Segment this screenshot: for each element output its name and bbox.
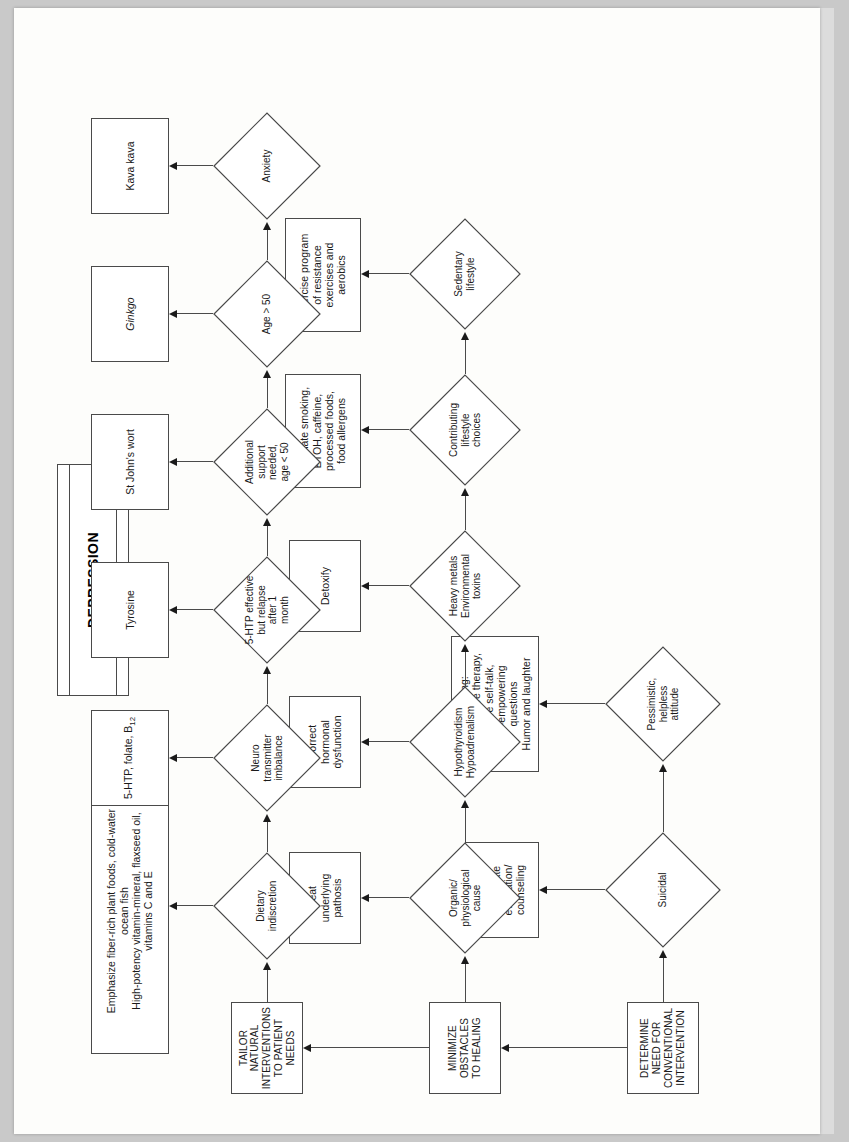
arrowhead-to-exercise <box>361 271 369 279</box>
connector-organic-to-treat-pathosis <box>369 897 409 898</box>
connector-thyroid-to-correct-hormonal <box>369 741 409 742</box>
arrowhead-to-eliminate <box>361 427 369 435</box>
paper-right-edge <box>820 8 834 1134</box>
connector-obstacles-to-organic <box>465 962 466 1002</box>
decision-contributing-lifestyle-choices[interactable]: Contributing lifestyle choices <box>409 374 521 486</box>
connector-support-to-stjohns <box>177 461 213 462</box>
arrowhead-to-pessimistic <box>659 764 667 772</box>
paper-sheet: DEPRESSION DETERMINE NEED FOR CONVENTION… <box>14 8 820 1134</box>
arrowhead-to-suicidal <box>659 950 667 958</box>
decision-suicidal[interactable]: Suicidal <box>605 832 721 948</box>
arrowhead-to-anxiety <box>263 222 271 230</box>
arrowhead-to-tyrosine <box>169 607 177 615</box>
arrowhead-to-sedentary <box>461 332 469 340</box>
connector-pessimistic-to-counseling <box>547 703 605 704</box>
decision-dietary-indiscretion[interactable]: Dietary indiscretion <box>213 852 321 960</box>
arrowhead-to-detoxify <box>361 583 369 591</box>
decision-age-over-50[interactable]: Age > 50 <box>213 260 321 368</box>
decision-pessimistic-helpless[interactable]: Pessimistic, helpless attitude <box>605 646 721 762</box>
connector-relapse-to-support <box>267 524 268 556</box>
stage-determine-need-conventional[interactable]: DETERMINE NEED FOR CONVENTIONAL INTERVEN… <box>627 1002 699 1094</box>
decision-relapse-label: 5-HTP effective but relapse after 1 mont… <box>244 569 290 651</box>
connector-anxiety-to-kava <box>177 165 213 166</box>
arrowhead-to-diet-plan <box>169 903 177 911</box>
connector-age50-to-anxiety <box>267 228 268 260</box>
decision-sedentary-label: Sedentary lifestyle <box>453 231 476 316</box>
decision-sedentary-lifestyle[interactable]: Sedentary lifestyle <box>409 218 521 330</box>
connector-spine-conventional-to-obstacles <box>509 1047 627 1048</box>
decision-heavy-metals-toxins[interactable]: Heavy metals Environmental toxins <box>409 530 521 642</box>
connector-natural-to-dietary <box>267 968 268 1002</box>
arrowhead-to-stjohns <box>169 459 177 467</box>
connector-suicidal-to-refer <box>547 889 605 890</box>
decision-hypothyroidism-hypoadrenalism[interactable]: Hypothyroidism Hypoadrenalism <box>409 686 521 798</box>
subscript-12: 12 <box>128 717 137 726</box>
stage-minimize-obstacles-to-healing[interactable]: MINIMIZE OBSTACLES TO HEALING <box>429 1002 501 1094</box>
arrowhead-to-metals <box>461 644 469 652</box>
stage-tailor-natural-interventions[interactable]: TAILOR NATURAL INTERVENTIONS TO PATIENT … <box>231 1002 303 1094</box>
arrowhead-to-lifestyle <box>461 488 469 496</box>
page-background: DEPRESSION DETERMINE NEED FOR CONVENTION… <box>0 0 849 1142</box>
arrowhead-to-counseling <box>539 701 547 709</box>
arrowhead-to-treat-pathosis <box>361 895 369 903</box>
connector-suicidal-to-pessimistic <box>663 770 664 832</box>
arrowhead-to-age50 <box>263 370 271 378</box>
connector-sedentary-to-exercise <box>369 273 409 274</box>
connector-dietary-to-diet-plan <box>177 905 213 906</box>
outcome-diet-plan[interactable]: Emphasize fiber-rich plant foods, cold-w… <box>91 768 169 1054</box>
arrowhead-spine-to-obstacles <box>501 1045 509 1053</box>
decision-age50-label: Age > 50 <box>261 273 273 355</box>
decision-suicidal-label: Suicidal <box>657 846 669 934</box>
arrowhead-to-correct-hormonal <box>361 739 369 747</box>
outcome-st-johns-wort[interactable]: St John's wort <box>91 414 169 510</box>
connector-dietary-to-neuro <box>267 820 268 852</box>
decision-anxiety[interactable]: Anxiety <box>213 112 321 220</box>
arrowhead-to-thyroid <box>461 800 469 808</box>
arrowhead-to-fivehtp <box>169 755 177 763</box>
outcome-ginkgo[interactable]: Ginkgo <box>91 266 169 362</box>
connector-organic-to-thyroid <box>465 806 466 842</box>
decision-metals-label: Heavy metals Environmental toxins <box>448 543 483 628</box>
arrowhead-to-kava <box>169 163 177 171</box>
decision-lifestyle-label: Contributing lifestyle choices <box>448 387 483 472</box>
flowchart-canvas: DEPRESSION DETERMINE NEED FOR CONVENTION… <box>27 26 807 1116</box>
outcome-tyrosine[interactable]: Tyrosine <box>91 562 169 658</box>
connector-conventional-to-suicidal <box>663 956 664 1002</box>
decision-support-label: Additional support needed, age < 50 <box>244 421 290 503</box>
outcome-kava-kava[interactable]: Kava kava <box>91 118 169 214</box>
arrowhead-to-support <box>263 518 271 526</box>
rotated-diagram-wrapper: DEPRESSION DETERMINE NEED FOR CONVENTION… <box>27 26 807 1116</box>
decision-anxiety-label: Anxiety <box>261 125 273 207</box>
arrowhead-to-relapse <box>263 666 271 674</box>
connector-spine-obstacles-to-natural <box>311 1047 429 1048</box>
connector-relapse-to-tyrosine <box>177 609 213 610</box>
outcome-5htp-label: 5-HTP, folate, B12 <box>122 717 137 799</box>
connector-neuro-to-fivehtp <box>177 757 213 758</box>
decision-neuro-label: Neuro transmitter imbalance <box>250 717 285 799</box>
connector-thyroid-to-metals <box>465 650 466 686</box>
arrowhead-to-dietary <box>263 962 271 970</box>
decision-neurotransmitter-imbalance[interactable]: Neuro transmitter imbalance <box>213 704 321 812</box>
connector-lifestyle-to-sedentary <box>465 338 466 374</box>
connector-age50-to-ginkgo <box>177 313 213 314</box>
connector-support-to-age50 <box>267 376 268 408</box>
decision-thyroid-label: Hypothyroidism Hypoadrenalism <box>453 699 476 784</box>
outcome-5htp-folate-b12[interactable]: 5-HTP, folate, B12 <box>91 710 169 806</box>
connector-metals-to-lifestyle <box>465 494 466 530</box>
arrowhead-to-neuro <box>263 814 271 822</box>
arrowhead-to-ginkgo <box>169 311 177 319</box>
decision-5htp-effective-but-relapse[interactable]: 5-HTP effective but relapse after 1 mont… <box>213 556 321 664</box>
decision-pessimistic-label: Pessimistic, helpless attitude <box>646 660 681 748</box>
decision-additional-support-needed[interactable]: Additional support needed, age < 50 <box>213 408 321 516</box>
arrowhead-to-refer <box>539 887 547 895</box>
decision-dietary-label: Dietary indiscretion <box>255 865 278 947</box>
connector-lifestyle-to-eliminate <box>369 429 409 430</box>
arrowhead-spine-to-natural <box>303 1045 311 1053</box>
decision-organic-label: Organic/ physiological cause <box>448 855 483 940</box>
arrowhead-to-organic <box>461 956 469 964</box>
decision-organic-physiological-cause[interactable]: Organic/ physiological cause <box>409 842 521 954</box>
connector-neuro-to-relapse <box>267 672 268 704</box>
connector-metals-to-detoxify <box>369 585 409 586</box>
